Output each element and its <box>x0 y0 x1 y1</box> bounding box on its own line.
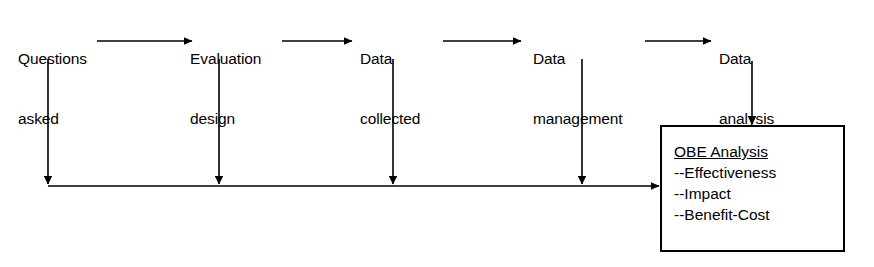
node-collected-line2: collected <box>360 109 420 129</box>
node-collected: Data collected <box>360 9 420 169</box>
node-evaluation-line1: Evaluation <box>190 49 261 69</box>
node-questions: Questions asked <box>18 9 87 169</box>
node-management-line2: management <box>533 109 622 129</box>
node-management-line1: Data <box>533 49 622 69</box>
obe-analysis-item-effectiveness: --Effectiveness <box>674 162 776 183</box>
node-management: Data management <box>533 9 622 169</box>
obe-analysis-item-impact: --Impact <box>674 183 776 204</box>
obe-analysis-content: OBE Analysis --Effectiveness --Impact --… <box>674 141 776 225</box>
node-questions-line1: Questions <box>18 49 87 69</box>
node-questions-line2: asked <box>18 109 87 129</box>
obe-analysis-title: OBE Analysis <box>674 141 776 162</box>
node-collected-line1: Data <box>360 49 420 69</box>
diagram-canvas: Questions asked Evaluation design Data c… <box>0 0 874 267</box>
node-evaluation-line2: design <box>190 109 261 129</box>
node-evaluation: Evaluation design <box>190 9 261 169</box>
obe-analysis-box: OBE Analysis --Effectiveness --Impact --… <box>660 125 845 252</box>
node-analysis-line1: Data <box>719 49 774 69</box>
obe-analysis-item-benefit-cost: --Benefit-Cost <box>674 204 776 225</box>
